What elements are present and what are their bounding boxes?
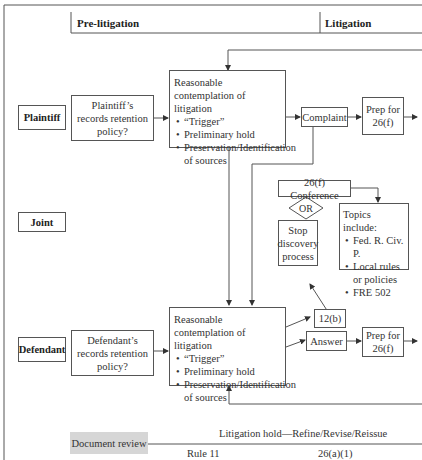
plaintiff-retention-box: Plaintiff’s records retention policy? [71,95,154,141]
stop-discovery-box: Stop discovery process [278,220,318,266]
defendant-bullet-preservation: Preservation/Identification of sources [184,378,281,404]
or-label: OR [288,201,324,215]
plaintiff-bullet-hold: Preliminary hold [184,128,281,141]
topics-box: Topics include: Fed. R. Civ. P. Local ru… [339,203,409,270]
rule-11-label: Rule 11 [187,448,220,459]
plaintiff-bullet-trigger: “Trigger” [184,115,281,128]
defendant-prep-box: Prep for 26(f) [362,327,404,357]
lane-plaintiff: Plaintiff [18,105,66,130]
plaintiff-bullet-preservation: Preservation/Identification of sources [184,141,281,167]
plaintiff-contemplation-box: Reasonable contemplation of litigation “… [169,70,286,148]
rule-26a1-label: 26(a)(1) [318,448,352,459]
lane-joint: Joint [18,212,66,232]
plaintiff-contemplation-title: Reasonable contemplation of litigation [174,76,281,115]
defendant-contemplation-box: Reasonable contemplation of litigation “… [169,307,286,386]
defendant-contemplation-title: Reasonable contemplation of litigation [174,313,281,352]
phase-litigation: Litigation [325,17,371,29]
answer-box: Answer [306,331,347,351]
topic-local-rules: Local rules or policies [353,260,405,286]
litigation-hold-label: Litigation hold—Refine/Revise/Reissue [219,428,387,439]
defendant-bullet-hold: Preliminary hold [184,365,281,378]
lane-defendant: Defendant [18,337,66,362]
topic-fre502: FRE 502 [353,286,405,299]
complaint-box: Complaint [301,107,348,127]
phase-pre-litigation: Pre-litigation [77,17,139,29]
topic-frcp: Fed. R. Civ. P. [353,234,405,260]
defendant-retention-box: Defendant’s records retention policy? [71,330,154,376]
document-review-box: Document review [70,432,148,454]
topics-title: Topics include: [343,208,405,234]
plaintiff-prep-box: Prep for 26(f) [362,97,404,135]
rule-12b-box: 12(b) [314,309,346,328]
conference-box: 26(f) Conference [278,180,351,197]
defendant-bullet-trigger: “Trigger” [184,352,281,365]
